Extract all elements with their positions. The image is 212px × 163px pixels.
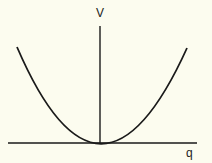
v-axis-label: V [96, 7, 104, 19]
q-axis-label: q [186, 147, 193, 159]
parabola-curve [17, 47, 187, 144]
diagram-canvas [0, 0, 212, 163]
potential-diagram: V q [0, 0, 212, 163]
